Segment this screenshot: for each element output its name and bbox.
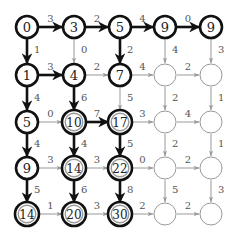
edge-weight-label: 4 [172,44,178,55]
edge-weight-label: 3 [218,44,224,55]
edge-v-r3-c4: 3 [211,180,224,202]
edge-weight-label: 1 [34,44,40,55]
node-circle [154,157,176,179]
edge-v-r1-c2: 5 [120,87,133,110]
node-r3-c3 [154,157,176,179]
edge-h-r3-c2: 0 [132,154,153,168]
node-value-label: 9 [161,20,169,35]
node-circle [154,64,176,86]
edge-h-r2-c0: 0 [39,108,62,122]
node-value-label: 9 [207,20,215,35]
node-value-label: 22 [112,162,127,176]
edge-weight-label: 2 [139,200,145,211]
node-r2-c4 [200,111,222,133]
edge-weight-label: 6 [81,184,87,195]
node-r3-c0: 9 [16,157,38,179]
edge-v-r3-c1: 6 [74,180,87,202]
edge-v-r2-c3: 2 [165,134,178,156]
edge-v-r2-c0: 4 [27,134,40,156]
node-r1-c0: 1 [16,64,38,86]
edge-v-r2-c1: 4 [74,134,87,156]
node-r4-c4 [200,203,222,225]
node-r2-c3 [154,111,176,133]
edge-h-r4-c1: 3 [86,200,108,214]
edge-v-r0-c2: 2 [120,39,133,63]
node-value-label: 30 [112,208,127,222]
node-r0-c2: 5 [109,16,131,38]
node-value-label: 14 [66,162,82,176]
node-circle [200,203,222,225]
edge-weight-label: 3 [47,61,53,72]
edge-weight-label: 4 [139,13,145,24]
edge-weight-label: 3 [94,200,100,211]
edge-weight-label: 2 [94,61,100,72]
edge-h-r0-c1: 2 [86,13,108,27]
node-circle [200,64,222,86]
edge-weight-label: 1 [218,138,224,149]
node-r3-c1: 14 [62,156,86,180]
node-r4-c2: 30 [108,202,132,226]
edge-v-r2-c4: 1 [211,134,224,156]
edge-weight-label: 5 [127,92,133,103]
node-value-label: 4 [70,68,78,83]
edge-weight-label: 4 [81,138,87,149]
edge-weight-label: 5 [172,184,178,195]
edge-h-r2-c1: 7 [86,108,108,122]
node-r4-c0: 14 [15,202,39,226]
edge-weight-label: 3 [47,154,53,165]
node-value-label: 10 [66,116,81,130]
node-r2-c1: 10 [62,110,86,134]
edge-v-r3-c0: 5 [27,180,40,202]
node-r3-c2: 22 [108,156,132,180]
edge-v-r2-c2: 5 [120,134,133,156]
edge-v-r0-c1: 0 [74,39,87,63]
edge-weight-label: 2 [185,154,191,165]
node-r1-c4 [200,64,222,86]
edge-weight-label: 5 [127,138,133,149]
edge-weight-label: 3 [94,154,100,165]
node-r0-c1: 3 [63,16,85,38]
node-value-label: 9 [23,161,31,176]
edge-weight-label: 2 [185,200,191,211]
edge-weight-label: 0 [47,108,53,119]
node-circle [200,111,222,133]
edge-v-r1-c1: 6 [74,87,87,110]
edge-weight-label: 6 [81,92,87,103]
node-r0-c0: 0 [16,16,38,38]
edge-weight-label: 2 [185,61,191,72]
edge-weight-label: 0 [81,44,87,55]
node-r0-c4: 9 [200,16,222,38]
edge-v-r3-c3: 5 [165,180,178,202]
node-value-label: 17 [112,116,127,130]
edge-h-r3-c3: 2 [177,154,199,168]
node-r1-c1: 4 [63,64,85,86]
edge-weight-label: 1 [218,92,224,103]
edge-weight-label: 2 [172,92,178,103]
edge-weight-label: 4 [185,108,191,119]
node-circle [200,157,222,179]
edge-v-r0-c4: 3 [211,39,224,63]
node-r4-c1: 20 [62,202,86,226]
edge-weight-label: 3 [47,13,53,24]
edge-v-r1-c4: 1 [211,87,224,110]
edge-weight-label: 4 [34,92,40,103]
edge-weight-label: 2 [94,13,100,24]
node-value-label: 20 [66,208,81,222]
edge-h-r1-c0: 3 [39,61,62,75]
edge-h-r1-c1: 2 [86,61,108,75]
edge-weight-label: 8 [127,184,133,195]
edge-h-r2-c2: 3 [132,108,153,122]
node-value-label: 5 [23,115,31,130]
edge-h-r4-c3: 2 [177,200,199,214]
edge-v-r1-c0: 4 [27,87,40,110]
edge-weight-label: 3 [139,108,145,119]
edge-h-r0-c3: 0 [177,13,199,27]
edge-h-r2-c3: 4 [177,108,199,122]
nodes-layer: 035991475101791422142030 [15,16,222,226]
edge-weight-label: 5 [34,184,40,195]
node-value-label: 1 [23,68,31,83]
node-r1-c2: 7 [109,64,131,86]
edge-weight-label: 7 [94,108,100,119]
node-r2-c0: 5 [16,111,38,133]
edge-v-r0-c3: 4 [165,39,178,63]
